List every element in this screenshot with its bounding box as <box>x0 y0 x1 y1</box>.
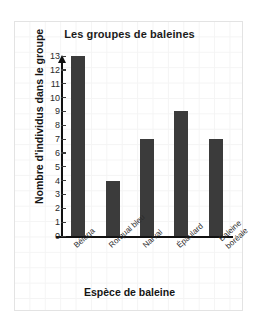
y-axis-tick-label: 3 <box>55 189 60 199</box>
y-axis-tick-label: 6 <box>55 148 60 158</box>
bar <box>71 56 85 236</box>
y-axis-tick-label: 1 <box>55 217 60 227</box>
y-axis-tick-label: 9 <box>55 106 60 116</box>
bar <box>174 111 188 236</box>
bar <box>209 139 223 236</box>
y-axis-tick-label: 12 <box>50 65 60 75</box>
y-axis-tick-label: 0 <box>55 231 60 241</box>
chart-title: Les groupes de baleines <box>15 28 244 40</box>
bar <box>106 181 120 236</box>
x-axis-title: Espèce de baleine <box>15 286 244 298</box>
y-axis-tick-label: 13 <box>50 51 60 61</box>
y-axis-tick-label: 4 <box>55 176 60 186</box>
y-axis-tick-label: 2 <box>55 203 60 213</box>
y-axis-tick-label: 5 <box>55 162 60 172</box>
chart-screenshot: Les groupes de baleines Nombre d'individ… <box>0 0 258 328</box>
y-axis-tick-label: 10 <box>50 93 60 103</box>
y-axis-tick-label: 11 <box>51 79 60 89</box>
y-axis-tick-label: 7 <box>55 134 60 144</box>
bar-series <box>61 51 233 237</box>
chart-card: Les groupes de baleines Nombre d'individ… <box>14 21 243 311</box>
plot-area: 012345678910111213 BélugaRorqual bleuNar… <box>61 51 233 237</box>
y-axis-tick-label: 8 <box>55 120 60 130</box>
